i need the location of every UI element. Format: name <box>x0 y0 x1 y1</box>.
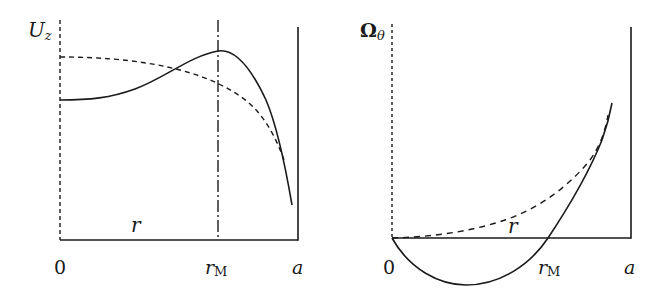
right-solid-curve <box>392 103 612 285</box>
left-rm-label: rM <box>205 256 227 279</box>
right-dashed-curve <box>392 115 608 238</box>
right-rm-label: rM <box>538 256 560 279</box>
left-r-label: r <box>131 213 142 237</box>
right-r-label: r <box>508 214 519 238</box>
figure: Uz r 0 rM a Ωθ r 0 rM a <box>0 0 670 291</box>
left-panel: Uz r 0 rM a <box>28 18 303 279</box>
left-wall-label: a <box>292 256 303 278</box>
right-y-label: Ωθ <box>360 19 385 43</box>
right-wall-label: a <box>624 256 635 278</box>
left-solid-curve <box>60 51 292 205</box>
left-origin-label: 0 <box>54 256 66 278</box>
right-panel: Ωθ r 0 rM a <box>360 19 635 285</box>
right-origin-label: 0 <box>383 256 395 278</box>
left-y-label: Uz <box>28 18 52 43</box>
